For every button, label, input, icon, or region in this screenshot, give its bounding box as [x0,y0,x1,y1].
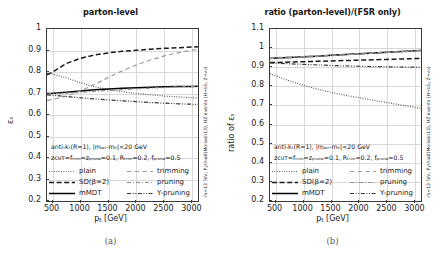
legend-swatch-trimming [350,170,376,173]
y-axis-tick-mark [269,162,272,163]
panel-a-title: parton-level [0,7,221,17]
y-axis-tick-mark [269,47,272,48]
legend-label: mMDT [302,188,325,198]
y-axis-tick-label: 0.3 [230,177,264,185]
curve-y-pruning [270,63,421,67]
panel-a-legend: plainSD(β=2)mMDTtrimmingpruningY-pruning [49,166,197,198]
y-axis-tick-mark [269,28,272,29]
y-axis-tick-mark [46,179,49,180]
legend-swatch-sd-2- [49,181,75,184]
legend-swatch-pruning [350,181,376,184]
x-axis-tick-mark [163,200,164,203]
x-axis-tick-mark [386,200,387,203]
y-axis-tick-mark [46,50,49,51]
y-axis-tick-label: 0.2 [230,196,264,204]
y-axis-tick-label: 0.7 [8,89,41,97]
panel-a: parton-level εₛ pt [GeV] anti-kₜ(R=1), |… [0,0,221,260]
y-axis-tick-label: 0.8 [8,67,41,75]
y-axis-tick-mark [46,157,49,158]
y-axis-tick-mark [46,28,49,29]
legend-label: trimming [380,166,412,176]
legend-swatch-pruning [127,181,153,184]
panel-b-title: ratio (parton-level)/(FSR only) [222,7,443,17]
x-axis-tick-mark [275,200,276,203]
panel-b-annotation-line2: zᴄᴜᴛ=fₜᵣᵢₘ=zₚᵣᵤₙₑ=0.1, Rₜᵣᵢₘ=0.2, fₚᵣᵤₙₑ… [274,154,403,161]
y-axis-tick-label: 1 [230,43,264,51]
legend-label: Y-pruning [157,188,190,198]
y-axis-tick-mark [269,200,272,201]
legend-label: plain [79,166,96,176]
y-axis-tick-mark [269,85,272,86]
legend-swatch-y-pruning [350,192,376,195]
y-axis-tick-label: 1 [8,24,41,32]
legend-swatch-plain [49,170,75,173]
y-axis-tick-mark [269,124,272,125]
y-axis-tick-mark [269,66,272,67]
y-axis-tick-label: 0.9 [230,62,264,70]
y-axis-tick-mark [269,104,272,105]
panel-b-caption: (b) [222,236,443,246]
x-axis-tick-label: 3000 [171,205,211,213]
legend-label: trimming [157,166,189,176]
panel-a-caption: (a) [0,236,221,246]
legend-label: mMDT [79,188,102,198]
x-axis-tick-mark [191,200,192,203]
y-axis-tick-label: 0.6 [8,110,41,118]
y-axis-tick-label: 1.1 [230,24,264,32]
y-axis-tick-label: 0.8 [230,81,264,89]
y-axis-tick-mark [46,71,49,72]
x-axis-tick-mark [80,200,81,203]
x-axis-tick-mark [303,200,304,203]
y-axis-tick-mark [269,181,272,182]
y-axis-tick-mark [46,200,49,201]
x-axis-tick-mark [414,200,415,203]
y-axis-tick-mark [269,143,272,144]
panel-a-sidenote: √s=13 TeV, Pythia8(Monash13), HZ events … [203,66,208,198]
y-axis-tick-label: 0.7 [230,100,264,108]
legend-swatch-sd-2- [272,181,298,184]
y-axis-tick-label: 0.2 [8,196,41,204]
panel-b: ratio (parton-level)/(FSR only) ratio of… [222,0,443,260]
curve-trimming [47,49,198,100]
legend-label: pruning [157,177,184,187]
x-axis-tick-mark [331,200,332,203]
curve-plain [270,74,421,108]
legend-swatch-mmdt [272,192,298,195]
panel-a-annotation-line1: anti-kₜ(R=1), |mⱼₑₜ-mₕ|<20 GeV [51,143,147,150]
legend-swatch-mmdt [49,192,75,195]
panel-b-xlabel: pt [GeV] [222,214,443,223]
x-axis-tick-mark [135,200,136,203]
y-axis-tick-mark [46,136,49,137]
legend-label: SD(β=2) [302,177,332,187]
x-axis-tick-label: 3000 [394,205,434,213]
y-axis-tick-label: 0.4 [8,153,41,161]
panel-b-sidenote: √s=13 TeV, Pythia8(Monash13), HZ events … [426,66,431,198]
y-axis-tick-label: 0.6 [230,120,264,128]
curve-sd-2- [47,47,198,75]
y-axis-tick-label: 0.4 [230,158,264,166]
panel-b-legend: plainSD(β=2)mMDTtrimmingpruningY-pruning [272,166,420,198]
legend-label: pruning [380,177,407,187]
y-axis-tick-label: 0.9 [8,46,41,54]
legend-label: Y-pruning [380,188,413,198]
curve-sd-2- [270,58,421,62]
x-axis-tick-mark [52,200,53,203]
y-axis-tick-mark [46,93,49,94]
y-axis-tick-mark [46,114,49,115]
legend-label: SD(β=2) [79,177,109,187]
y-axis-tick-label: 0.5 [8,132,41,140]
y-axis-tick-label: 0.3 [8,175,41,183]
panel-b-annotation-line1: anti-kₜ(R=1), |mⱼₑₜ-mₕ|<20 GeV [274,143,370,150]
panel-a-annotation-line2: zᴄᴜᴛ=fₜᵣᵢₘ=zₚᵣᵤₙₑ=0.1, Rₜᵣᵢₘ=0.2, fₚᵣᵤₙₑ… [51,154,180,161]
legend-label: plain [302,166,319,176]
legend-swatch-trimming [127,170,153,173]
x-axis-tick-mark [108,200,109,203]
y-axis-tick-label: 0.5 [230,139,264,147]
legend-swatch-y-pruning [127,192,153,195]
figure-container: parton-level εₛ pt [GeV] anti-kₜ(R=1), |… [0,0,443,260]
legend-swatch-plain [272,170,298,173]
panel-a-xlabel: pt [GeV] [0,214,221,223]
curve-y-pruning [47,95,198,105]
x-axis-tick-mark [358,200,359,203]
